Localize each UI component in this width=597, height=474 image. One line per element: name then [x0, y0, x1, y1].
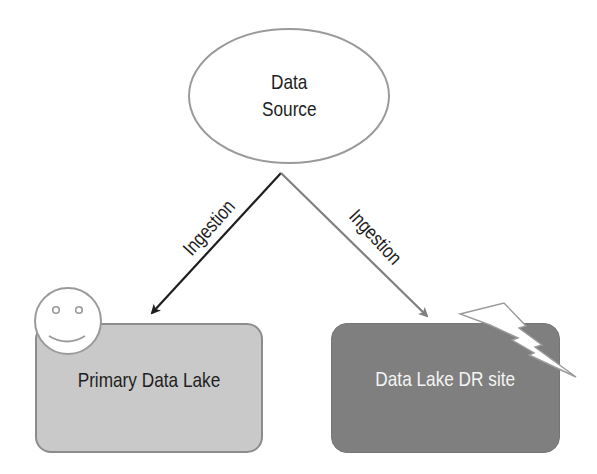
ingestion-arrow-dr [281, 173, 427, 316]
data-source-label-line1: Data [271, 68, 307, 95]
ingestion-arrow-primary [152, 173, 281, 313]
diagram: Data Source Ingestion Ingestion Primary … [0, 0, 597, 474]
data-source-label: Data Source [224, 68, 354, 122]
primary-data-lake-label-wrap: Primary Data Lake [37, 367, 261, 393]
dr-site-label-wrap: Data Lake DR site [332, 366, 559, 392]
data-source-label-line2: Source [262, 95, 317, 122]
dr-site-label: Data Lake DR site [376, 366, 516, 392]
primary-data-lake-label: Primary Data Lake [78, 367, 221, 393]
primary-data-lake-node[interactable]: Primary Data Lake [35, 323, 263, 453]
dr-site-node[interactable]: Data Lake DR site [331, 323, 560, 453]
